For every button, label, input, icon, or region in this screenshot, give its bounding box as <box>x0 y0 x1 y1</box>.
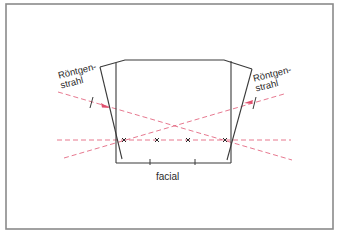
ray-tick-right <box>253 97 256 109</box>
object-outline-top <box>100 60 252 69</box>
diagram-figure: Röntgen- strahl Röntgen- strahl facial <box>0 0 339 234</box>
figure-frame <box>6 4 333 229</box>
object-slant-left <box>100 67 122 159</box>
diagram-canvas <box>0 0 339 234</box>
arrowhead-right-icon <box>244 100 253 104</box>
facial-label: facial <box>156 172 179 182</box>
